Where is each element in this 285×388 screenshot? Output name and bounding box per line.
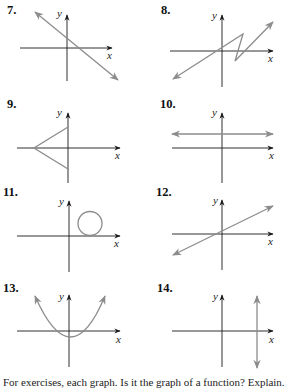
- exercise-10-graph: [172, 113, 273, 183]
- circle-curve: [78, 212, 102, 236]
- line-curve: [35, 12, 118, 80]
- exercise-7-graph: [20, 12, 118, 81]
- exercise-13-graph: [17, 295, 120, 367]
- line-curve: [173, 206, 273, 255]
- exercise-14-graph: [172, 295, 273, 368]
- zigzag-curve: [173, 22, 273, 79]
- exercise-8-graph: [170, 15, 273, 87]
- exercise-12-graph: [172, 200, 273, 270]
- exercise-11-graph: [17, 201, 120, 272]
- exercise-9-graph: [17, 113, 120, 183]
- instructions-text: For exercises, each graph. Is it the gra…: [3, 376, 285, 388]
